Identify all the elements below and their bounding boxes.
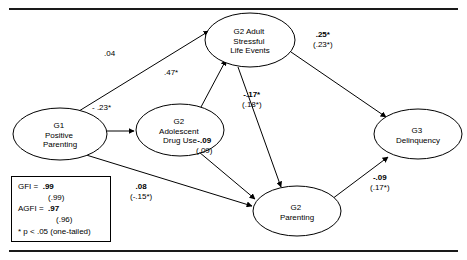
path-label-stress-to-delinquency: .25* (.23*): [313, 30, 333, 50]
coefficient-value: .25*: [313, 30, 333, 40]
agfi-value: .97: [48, 204, 59, 213]
gfi-value: .99: [43, 182, 54, 191]
coefficient-paren-value: (.17*): [370, 183, 390, 193]
node-line: Positive: [45, 131, 74, 140]
node-line: G2: [174, 117, 185, 126]
node-line: Parenting: [43, 140, 77, 149]
coefficient-value: .47*: [164, 68, 178, 78]
coefficient-value: -.09: [370, 173, 390, 183]
coefficient-paren-value: (.23*): [313, 40, 333, 50]
path-line-stress-to-parenting: [238, 67, 281, 187]
node-line: G2 Adult: [234, 27, 265, 36]
node-line: Life Events: [230, 46, 270, 55]
significance-note: * p < .05 (one-tailed): [18, 225, 104, 237]
node-label-g2-adult-stressful-life-events: G2 Adult Stressful Life Events: [230, 27, 270, 55]
path-label-drug-to-parenting: -.09 (.09): [196, 136, 212, 156]
coefficient-value: - .23*: [92, 103, 111, 113]
node-line: Drug Use: [163, 136, 197, 145]
node-line: G2: [291, 203, 302, 212]
fit-row-gfi-paren: (.99): [18, 192, 104, 203]
path-label-g1-to-parenting: .08 (-.15*): [130, 182, 152, 202]
coefficient-value: .08: [130, 182, 152, 192]
path-label-g1-to-drug: - .23*: [92, 103, 111, 113]
node-line: Delinquency: [396, 136, 440, 145]
node-line: Stressful: [233, 37, 264, 46]
path-line-drug-to-stress: [201, 60, 226, 107]
node-line: G1: [54, 121, 65, 130]
node-line: Adolescent: [159, 127, 199, 136]
path-label-parenting-to-delinquency: -.09 (.17*): [370, 173, 390, 193]
coefficient-value: -.09: [196, 136, 212, 146]
agfi-label: AGFI =: [18, 204, 44, 213]
gfi-paren-value: (.99): [48, 193, 64, 202]
node-line: G3: [412, 126, 423, 135]
gfi-label: GFI =: [18, 182, 38, 191]
model-fit-box: GFI = .99 (.99) AGFI = .97 (.96) * p < .…: [11, 176, 111, 242]
coefficient-paren-value: (.09): [196, 146, 212, 156]
fit-row-gfi: GFI = .99: [18, 181, 104, 192]
path-line-stress-to-delinquency: [291, 52, 386, 117]
fit-row-agfi-paren: (.96): [18, 214, 104, 225]
coefficient-paren-value: (.18*): [242, 100, 262, 110]
path-line-g1-to-stress: [79, 31, 209, 111]
coefficient-paren-value: (-.15*): [130, 192, 152, 202]
fit-row-agfi: AGFI = .97: [18, 203, 104, 214]
path-label-stress-to-parenting: -.17* (.18*): [242, 90, 262, 110]
path-diagram-figure: G1 Positive Parenting G2 Adolescent Drug…: [0, 0, 467, 260]
agfi-paren-value: (.96): [56, 215, 72, 224]
path-label-g1-to-stress: .04: [104, 49, 115, 59]
node-line: Parenting: [280, 213, 314, 222]
path-label-drug-to-stress: .47*: [164, 68, 178, 78]
coefficient-value: -.17*: [242, 90, 262, 100]
coefficient-value: .04: [104, 49, 115, 59]
